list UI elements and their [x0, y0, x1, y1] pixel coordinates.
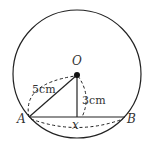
label-radius-length: 5cm [32, 84, 56, 95]
center-point [74, 72, 80, 78]
radius-oa [29, 75, 77, 117]
label-x: x [72, 119, 79, 131]
label-distance-length: 3cm [82, 95, 106, 106]
label-a: A [17, 113, 26, 125]
label-b: B [127, 113, 136, 125]
label-o: O [72, 55, 82, 67]
circle-chord-diagram: O A B x 5cm 3cm [0, 0, 149, 149]
